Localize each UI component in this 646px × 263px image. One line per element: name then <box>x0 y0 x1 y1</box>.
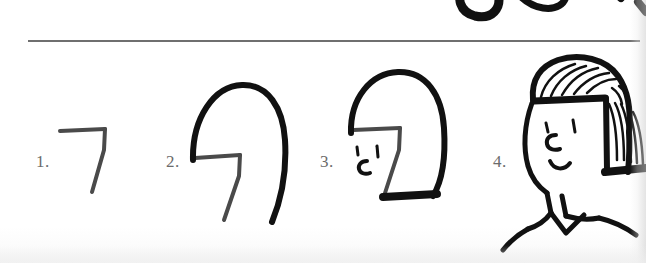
step-2-label: 2. <box>166 152 180 172</box>
step-3-label: 3. <box>320 152 334 172</box>
tutorial-page: 1. 2. 3. 4. <box>0 0 646 263</box>
step-4-drawing <box>0 0 646 263</box>
step-4-label: 4. <box>493 152 507 172</box>
step-1-label: 1. <box>36 152 50 172</box>
